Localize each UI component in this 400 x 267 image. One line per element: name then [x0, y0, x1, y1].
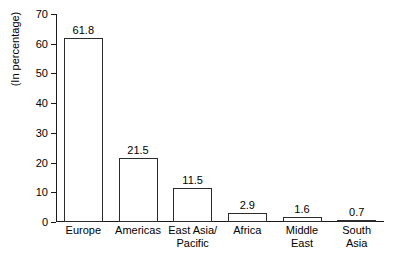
y-axis-tick-label: 50 — [36, 65, 48, 81]
y-axis-tick: 40 — [51, 103, 56, 104]
x-axis-category-label: East Asia/ Pacific — [165, 224, 220, 250]
bar-chart: (In percentage) 010203040506070 61.821.5… — [0, 0, 400, 267]
y-axis-tick-label: 10 — [36, 184, 48, 200]
bar-value-label: 11.5 — [182, 174, 203, 187]
y-axis-tick: 30 — [51, 133, 56, 134]
y-axis-tick-label: 60 — [36, 36, 48, 52]
bar: 0.7 — [337, 220, 376, 222]
bar-value-label: 0.7 — [349, 206, 364, 219]
bar: 21.5 — [119, 158, 158, 222]
y-axis-label: (In percentage) — [6, 0, 24, 104]
x-axis-category-label: Americas — [111, 224, 166, 237]
x-axis-line — [56, 221, 384, 222]
y-axis-tick-label: 20 — [36, 155, 48, 171]
bar: 11.5 — [173, 188, 212, 222]
bar-value-label: 1.6 — [294, 203, 309, 216]
y-axis-tick-label: 0 — [42, 214, 48, 230]
x-axis-category-label: South Asia — [329, 224, 384, 250]
bar-value-label: 21.5 — [127, 144, 148, 157]
y-axis-tick: 0 — [51, 222, 56, 223]
y-axis-tick: 20 — [51, 163, 56, 164]
bar: 2.9 — [228, 213, 267, 222]
plot-area: 010203040506070 61.821.511.52.91.60.7 Eu… — [56, 14, 384, 222]
bar-value-label: 61.8 — [73, 24, 94, 37]
y-axis-tick-label: 30 — [36, 125, 48, 141]
bar: 61.8 — [64, 38, 103, 222]
y-axis-tick: 70 — [51, 14, 56, 15]
y-axis-tick: 60 — [51, 44, 56, 45]
x-axis-category-label: Africa — [220, 224, 275, 237]
y-axis-tick-label: 70 — [36, 6, 48, 22]
x-axis-category-label: Middle East — [275, 224, 330, 250]
y-axis-tick: 50 — [51, 73, 56, 74]
bar: 1.6 — [283, 217, 322, 222]
x-axis-category-label: Europe — [56, 224, 111, 237]
bar-value-label: 2.9 — [240, 199, 255, 212]
y-axis-line — [56, 14, 57, 222]
y-axis-tick: 10 — [51, 192, 56, 193]
y-axis-tick-label: 40 — [36, 95, 48, 111]
